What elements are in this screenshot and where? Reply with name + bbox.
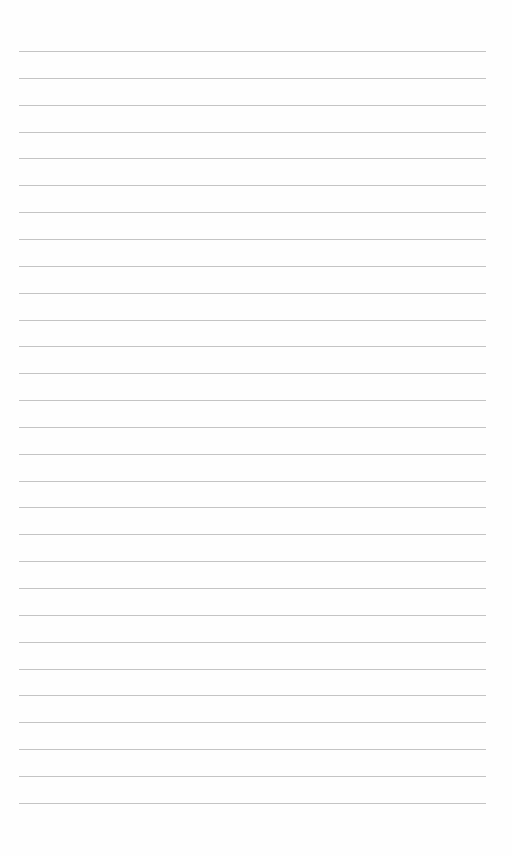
ruled-line — [19, 507, 486, 508]
ruled-line — [19, 185, 486, 186]
ruled-line — [19, 51, 486, 52]
ruled-line — [19, 78, 486, 79]
ruled-line — [19, 615, 486, 616]
ruled-line — [19, 722, 486, 723]
ruled-line — [19, 642, 486, 643]
ruled-line — [19, 346, 486, 347]
ruled-line — [19, 320, 486, 321]
ruled-line — [19, 427, 486, 428]
ruled-line — [19, 239, 486, 240]
ruled-line — [19, 454, 486, 455]
ruled-line — [19, 373, 486, 374]
ruled-line — [19, 588, 486, 589]
ruled-line — [19, 266, 486, 267]
lined-paper-page — [0, 0, 512, 856]
ruled-line — [19, 695, 486, 696]
ruled-line — [19, 293, 486, 294]
ruled-line — [19, 749, 486, 750]
ruled-line — [19, 212, 486, 213]
ruled-line — [19, 158, 486, 159]
ruled-line — [19, 534, 486, 535]
ruled-line — [19, 803, 486, 804]
ruled-line — [19, 776, 486, 777]
ruled-line — [19, 669, 486, 670]
ruled-line — [19, 132, 486, 133]
ruled-line — [19, 400, 486, 401]
ruled-line — [19, 481, 486, 482]
ruled-line — [19, 561, 486, 562]
ruled-line — [19, 105, 486, 106]
